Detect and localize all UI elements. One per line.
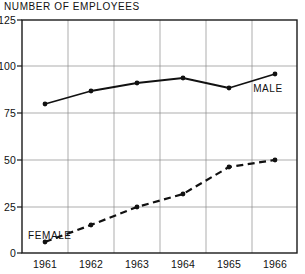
series-label-female: FEMALE [28,230,72,241]
ytick-label-125: 125 [0,14,16,26]
ytick-label-0: 0 [10,247,16,259]
y-axis-ticks [17,20,22,253]
xtick-label-1963: 1963 [125,258,149,270]
datapoint-male-1966 [273,72,278,77]
datapoint-female-1964 [181,192,186,197]
ytick-label-25: 25 [4,201,16,213]
datapoint-male-1962 [89,89,94,94]
vertical-gridlines [68,20,252,253]
line-chart-plot: 125 100 75 50 25 0 1961 1962 1963 1964 1… [0,0,305,274]
plot-frame [22,20,297,253]
datapoint-female-1962 [89,223,94,228]
datapoint-female-1965 [227,165,232,170]
xtick-label-1962: 1962 [79,258,103,270]
datapoint-male-1964 [181,76,186,81]
datapoint-female-1966 [273,158,278,163]
ytick-label-50: 50 [4,154,16,166]
xtick-label-1964: 1964 [171,258,195,270]
xtick-label-1965: 1965 [217,258,241,270]
datapoint-male-1961 [43,102,48,107]
xtick-label-1961: 1961 [33,258,57,270]
datapoint-male-1965 [227,86,232,91]
ytick-label-100: 100 [0,60,16,72]
series-label-male: MALE [253,83,283,94]
datapoint-female-1963 [135,205,140,210]
datapoint-male-1963 [135,81,140,86]
y-axis-labels: 125 100 75 50 25 0 [0,14,16,259]
x-axis-labels: 1961 1962 1963 1964 1965 1966 [33,258,287,270]
chart-figure: NUMBER OF EMPLOYEES [0,0,305,274]
xtick-label-1966: 1966 [263,258,287,270]
ytick-label-75: 75 [4,107,16,119]
